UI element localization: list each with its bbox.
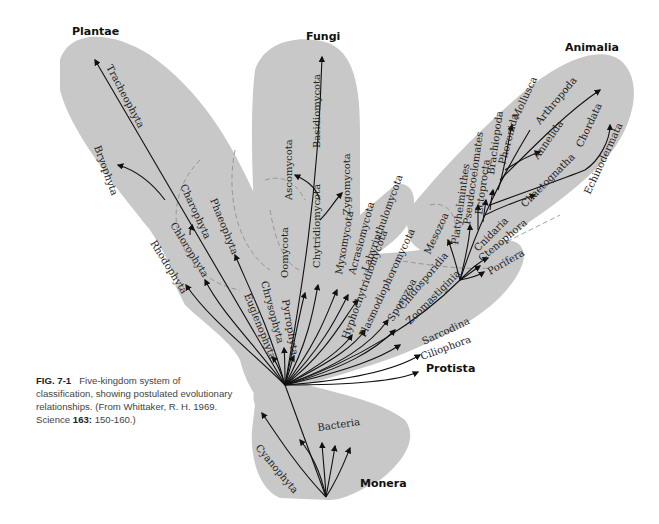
taxon-chytridiomycota: Chytridiomycota [311, 184, 322, 268]
figure-label: FIG. 7-1 [36, 375, 71, 386]
kingdom-animalia: Animalia [565, 41, 619, 54]
five-kingdom-diagram: Plantae Fungi Animalia Protista Monera T… [0, 0, 659, 524]
caption-volume: 163: [73, 414, 92, 425]
kingdom-monera: Monera [360, 477, 407, 490]
taxon-oomycota: Oomycota [279, 227, 290, 278]
taxon-basidiomycota: Basidiomycota [311, 74, 322, 148]
kingdom-fungi: Fungi [306, 30, 340, 43]
kingdom-protista: Protista [426, 362, 475, 375]
kingdom-plantae: Plantae [72, 25, 119, 38]
taxon-zygomycota: Zygomycota [341, 153, 352, 215]
figure-caption: FIG. 7-1 Five-kingdom system of classifi… [36, 374, 236, 426]
caption-pages: 150-160.) [92, 414, 136, 425]
taxon-ascomycota: Ascomycota [283, 139, 294, 201]
